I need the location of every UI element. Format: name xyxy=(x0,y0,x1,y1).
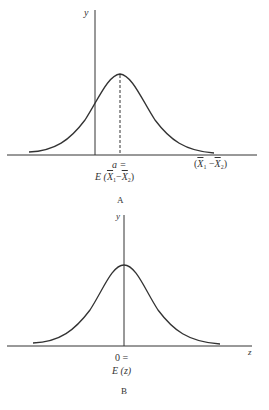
panel-b-mean-label-line2: E (z) xyxy=(112,366,131,376)
panel-a-x-axis-label: (X1 −X2) xyxy=(194,159,227,170)
panel-a-normal-curve xyxy=(29,74,214,153)
panel-b xyxy=(7,215,252,346)
expectation-operator: E ( xyxy=(95,171,107,182)
normal-distribution-figure xyxy=(0,0,269,410)
panel-b-normal-curve xyxy=(33,265,220,344)
panel-b-y-axis-label: y xyxy=(116,212,120,221)
panel-b-caption: B xyxy=(121,387,127,396)
panel-a xyxy=(7,10,257,155)
panel-a-y-axis-label: y xyxy=(84,8,88,18)
panel-b-x-axis-label: z xyxy=(248,348,252,357)
panel-a-mean-label-line1: a = xyxy=(112,160,126,170)
panel-b-mean-label-line1: 0 = xyxy=(115,353,128,363)
panel-a-caption: A xyxy=(117,196,124,205)
panel-a-mean-label-line2: E (X1−X2) xyxy=(95,172,134,183)
